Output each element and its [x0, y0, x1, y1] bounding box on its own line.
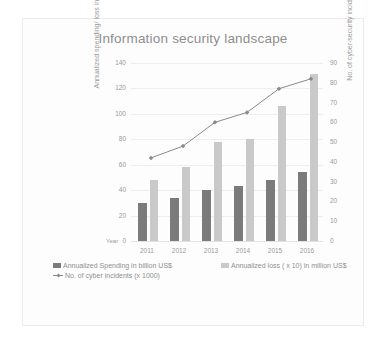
- legend-label-spending: Annualized Spending in billion US$: [63, 262, 172, 269]
- line-series: [131, 63, 323, 241]
- y-axis-right-tick-label: 30: [330, 179, 337, 186]
- legend-row-bars: Annualized Spending in billion US$ Annua…: [53, 262, 353, 269]
- x-axis-tick-label: 2011: [132, 247, 162, 254]
- x-axis-title: Year: [106, 238, 118, 244]
- chart-legend: Annualized Spending in billion US$ Annua…: [53, 262, 353, 282]
- x-axis-tick-label: 2012: [164, 247, 194, 254]
- y-axis-right-tick-label: 0: [330, 238, 334, 245]
- legend-label-loss: Annualized loss ( x 10) in million US$: [231, 262, 347, 269]
- gridline: [131, 241, 323, 242]
- y-axis-left-title: Annualized spending/ loss in US dollars: [92, 0, 101, 91]
- y-axis-left-tick-label: 0: [122, 238, 126, 245]
- x-axis-tick-label: 2013: [196, 247, 226, 254]
- y-axis-left-tick-label: 20: [119, 213, 126, 220]
- y-axis-left-tick-label: 100: [115, 111, 126, 118]
- y-axis-right-tick-label: 20: [330, 198, 337, 205]
- legend-row-line: No. of cyber incidents (x 1000): [53, 272, 353, 279]
- legend-item-incidents[interactable]: No. of cyber incidents (x 1000): [53, 272, 160, 279]
- plot-area: 140120100806040200 9080706050403020100 2…: [131, 63, 323, 241]
- y-axis-right-tick-label: 60: [330, 119, 337, 126]
- y-axis-right-tick-label: 90: [330, 60, 337, 67]
- y-axis-left-tick-label: 120: [115, 85, 126, 92]
- x-axis-tick-label: 2015: [260, 247, 290, 254]
- legend-swatch-spending-icon: [53, 263, 61, 268]
- legend-swatch-loss-icon: [221, 263, 229, 268]
- legend-item-loss[interactable]: Annualized loss ( x 10) in million US$: [221, 262, 347, 269]
- y-axis-right-title: No. of cyber-security incidents (x1000): [345, 0, 354, 87]
- y-axis-right-tick-label: 80: [330, 80, 337, 87]
- y-axis-right-tick-label: 70: [330, 100, 337, 107]
- y-axis-left-tick-label: 40: [119, 187, 126, 194]
- y-axis-left-tick-label: 140: [115, 60, 126, 67]
- legend-item-spending[interactable]: Annualized Spending in billion US$: [53, 262, 221, 269]
- y-axis-right-tick-label: 50: [330, 139, 337, 146]
- legend-label-incidents: No. of cyber incidents (x 1000): [65, 272, 160, 279]
- chart-figure: Information security landscape Annualize…: [22, 18, 364, 326]
- y-axis-right-tick-label: 40: [330, 159, 337, 166]
- incident-line-path: [151, 79, 311, 158]
- legend-swatch-line-icon: [53, 273, 63, 278]
- chart-title: Information security landscape: [23, 31, 363, 46]
- incident-line-marker[interactable]: [149, 156, 154, 161]
- y-axis-left-tick-label: 80: [119, 136, 126, 143]
- x-axis-tick-label: 2016: [292, 247, 322, 254]
- y-axis-left-tick-label: 60: [119, 162, 126, 169]
- x-axis-tick-label: 2014: [228, 247, 258, 254]
- incident-line-marker[interactable]: [309, 77, 314, 82]
- y-axis-right-tick-label: 10: [330, 218, 337, 225]
